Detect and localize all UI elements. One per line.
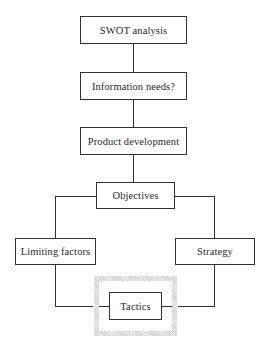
node-label: Tactics <box>120 301 150 312</box>
node-strategy: Strategy <box>175 238 255 265</box>
connector-limiting-to-tactics-a <box>55 306 93 307</box>
connector-tactics-right-inner <box>162 306 172 307</box>
node-label: Information needs? <box>92 81 175 92</box>
connector-tactics-left-inner <box>99 306 109 307</box>
node-label: SWOT analysis <box>100 25 167 36</box>
node-objectives: Objectives <box>96 182 175 209</box>
node-label: Strategy <box>197 246 233 257</box>
node-product-development: Product development <box>80 127 187 155</box>
node-limiting-factors: Limiting factors <box>15 238 96 265</box>
node-information-needs: Information needs? <box>80 72 187 100</box>
connector-objectives-left-horizontal <box>55 196 96 197</box>
node-label: Limiting factors <box>21 246 91 257</box>
connector-info-product <box>133 100 134 127</box>
node-swot-analysis: SWOT analysis <box>80 16 187 44</box>
connector-strategy-to-tactics-a <box>178 306 215 307</box>
connector-objectives-left-vertical <box>55 196 56 238</box>
connector-product-objectives <box>133 155 134 182</box>
connector-limiting-down <box>55 265 56 307</box>
node-tactics: Tactics <box>109 292 162 320</box>
node-label: Product development <box>88 136 179 147</box>
connector-strategy-down <box>214 265 215 307</box>
connector-swot-info <box>133 44 134 72</box>
connector-objectives-right-horizontal <box>175 196 215 197</box>
node-label: Objectives <box>113 190 159 201</box>
connector-objectives-right-vertical <box>214 196 215 238</box>
